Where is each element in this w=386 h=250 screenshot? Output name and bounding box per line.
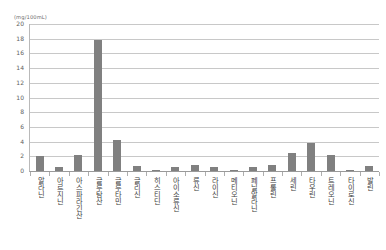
x-tick-mark [243,172,244,176]
bar-slot [166,24,185,171]
bar [249,167,257,171]
x-tick-mark [88,172,89,176]
x-label-slot: 발린 [360,177,379,247]
y-axis-tick-label: 2 [20,153,24,159]
y-axis-tick-label: 6 [20,124,24,130]
bar-slot [340,24,359,171]
x-axis-category-label: 타이로신 [346,177,354,205]
x-tick-slot [301,172,320,176]
x-tick-mark [108,172,109,176]
bar [365,166,373,171]
x-tick-slot [282,172,301,176]
x-tick-mark [166,172,167,176]
bar-slot [185,24,204,171]
x-tick-slot [88,172,107,176]
bar-slot [360,24,379,171]
x-axis-category-label: 발린 [366,177,374,191]
bar [288,153,296,171]
x-axis-category-label: 아스파라긴산 [75,177,83,219]
bar [327,155,335,171]
x-tick-mark [30,172,31,176]
x-label-slot: 트레오닌 [321,177,340,247]
x-label-slot: 알라닌 [30,177,49,247]
bar-slot [205,24,224,171]
bar-slot [69,24,88,171]
x-tick-slot [185,172,204,176]
x-tick-slot [360,172,379,176]
x-tick-mark [360,172,361,176]
x-tick-slot [127,172,146,176]
x-tick-slot [146,172,165,176]
y-axis-tick-label: 8 [20,109,24,115]
bar-slot [243,24,262,171]
x-tick-mark [69,172,70,176]
x-label-slot: 아이소류신 [166,177,185,247]
x-tick-slot [30,172,49,176]
x-axis-category-label: 페닐알라닌 [249,177,257,212]
x-tick-mark [185,172,186,176]
bar [94,40,102,171]
chart-page: (mg/100mL) 20181614121086420 알라닌아르지닌아스파라… [0,0,386,250]
x-axis-category-label: 류신 [191,177,199,191]
x-axis-category-label: 알라닌 [36,177,44,198]
x-label-slot: 아스파라긴산 [69,177,88,247]
y-axis-tick-label: 4 [20,139,24,145]
x-tick-slot [49,172,68,176]
x-axis-category-label: 글루탐산 [94,177,102,205]
x-label-slot: 페닐알라닌 [243,177,262,247]
x-label-slot: 타우린 [301,177,320,247]
y-axis-tick-label: 0 [20,168,24,174]
x-tick-slot [166,172,185,176]
x-label-slot: 아르지닌 [49,177,68,247]
x-axis-tick-marks [30,172,379,176]
x-axis-category-label: 아이소류신 [172,177,180,212]
x-label-slot: 히스티딘 [146,177,165,247]
x-label-slot: 라이신 [205,177,224,247]
bar [36,156,44,171]
x-label-slot: 타이로신 [340,177,359,247]
x-tick-mark [205,172,206,176]
bar [230,170,238,171]
x-tick-mark [127,172,128,176]
x-axis-category-label: 아르지닌 [55,177,63,205]
bar [191,165,199,171]
y-axis-tick-label: 16 [16,50,24,56]
x-tick-slot [224,172,243,176]
bar [307,143,315,171]
x-axis-category-label: 히스티딘 [152,177,160,205]
x-tick-mark [49,172,50,176]
bar-slot [282,24,301,171]
x-axis-category-label: 트레오닌 [327,177,335,205]
x-tick-mark [379,172,380,176]
x-tick-mark [224,172,225,176]
x-tick-slot [243,172,262,176]
x-tick-slot [340,172,359,176]
bar-slot [301,24,320,171]
bar-slot [49,24,68,171]
x-tick-slot [108,172,127,176]
x-tick-slot [263,172,282,176]
bar-slot [321,24,340,171]
bar [74,155,82,171]
bar-series [30,24,379,171]
bar-slot [224,24,243,171]
bar [55,167,63,171]
x-axis-category-label: 글리신 [133,177,141,198]
bar-slot [146,24,165,171]
bar [113,140,121,171]
x-axis-category-label: 메티오닌 [230,177,238,205]
x-axis-category-label: 라이신 [210,177,218,198]
x-axis-category-label: 타우린 [307,177,315,198]
x-tick-mark [340,172,341,176]
y-axis-tick-labels: 20181614121086420 [0,24,27,172]
x-label-slot: 류신 [185,177,204,247]
y-axis-tick-label: 18 [16,36,24,42]
bar [171,167,179,171]
x-axis-category-label: 글루타민 [113,177,121,205]
bar-slot [108,24,127,171]
y-axis-tick-label: 20 [16,21,24,27]
bar-slot [30,24,49,171]
x-label-slot: 프롤린 [263,177,282,247]
bar-slot [127,24,146,171]
bar-slot [263,24,282,171]
